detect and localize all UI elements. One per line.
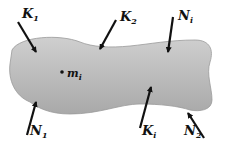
force-diagram: mi K1 K2 Ni N1 Ki N2 [0, 0, 226, 148]
label-Ni: Ni [177, 8, 193, 25]
rigid-body [10, 37, 212, 114]
label-K1: K1 [21, 6, 39, 23]
label-N2: N2 [183, 123, 202, 140]
force-arrow-K2 [100, 20, 116, 49]
label-K2: K2 [119, 9, 137, 26]
mass-point [60, 70, 64, 74]
label-Ki: Ki [141, 123, 156, 140]
label-N1: N1 [29, 123, 47, 140]
